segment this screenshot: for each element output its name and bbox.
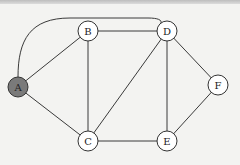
edges-layer xyxy=(18,18,218,141)
node-label: E xyxy=(163,136,170,147)
edge-d-c xyxy=(88,31,167,141)
node-a[interactable]: A xyxy=(8,77,28,97)
node-b[interactable]: B xyxy=(78,21,98,41)
node-c[interactable]: C xyxy=(78,131,98,151)
node-e[interactable]: E xyxy=(157,131,177,151)
node-label: B xyxy=(84,26,91,37)
node-label: D xyxy=(163,26,171,37)
node-label: C xyxy=(84,136,92,147)
edge-a-c xyxy=(18,87,88,141)
graph-diagram: ABCDEF xyxy=(0,0,240,165)
node-label: A xyxy=(13,82,22,93)
node-label: F xyxy=(215,80,222,91)
node-f[interactable]: F xyxy=(208,75,228,95)
edge-d-f xyxy=(167,31,218,85)
node-d[interactable]: D xyxy=(157,21,177,41)
nodes-layer: ABCDEF xyxy=(8,21,228,151)
edge-a-b xyxy=(18,31,88,87)
edge-e-f xyxy=(167,85,218,141)
